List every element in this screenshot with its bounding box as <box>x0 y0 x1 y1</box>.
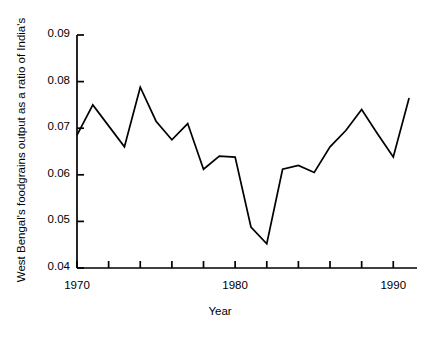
y-tick-label: 0.04 <box>28 260 70 272</box>
y-tick-label: 0.09 <box>28 27 70 39</box>
y-tick-label: 0.06 <box>28 167 70 179</box>
data-series-line <box>77 87 409 244</box>
y-axis-title: West Bengal's foodgrains output as a rat… <box>15 18 27 282</box>
x-tick-label: 1970 <box>52 279 102 291</box>
x-tick-label: 1980 <box>210 279 260 291</box>
axes-group <box>77 35 417 268</box>
y-tick-label: 0.08 <box>28 74 70 86</box>
chart-figure: West Bengal's foodgrains output as a rat… <box>0 0 440 337</box>
y-tick-label: 0.07 <box>28 120 70 132</box>
y-axis-title-wrap: West Bengal's foodgrains output as a rat… <box>6 0 36 300</box>
x-axis-title: Year <box>0 305 440 317</box>
y-tick-label: 0.05 <box>28 213 70 225</box>
x-tick-label: 1990 <box>368 279 418 291</box>
x-axis-ticks <box>77 261 393 268</box>
y-axis-ticks <box>77 35 84 268</box>
